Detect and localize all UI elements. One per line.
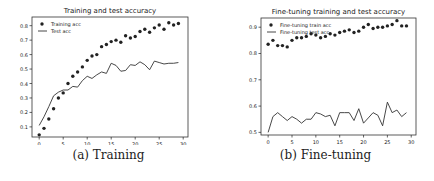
- finetuning-caption: (b) Fine-tuning: [217, 148, 434, 162]
- test-accuracy-line: [39, 61, 178, 125]
- training-accuracy-chart: Training and test accuracy0.10.20.30.40.…: [0, 0, 217, 145]
- legend-label: Training acc: [50, 21, 81, 28]
- y-tick-label: 0.1: [20, 124, 28, 130]
- training-caption: (a) Training: [0, 148, 217, 162]
- y-tick-label: 0.7: [249, 77, 257, 83]
- x-tick-label: 5: [62, 141, 65, 145]
- x-tick-label: 5: [290, 139, 293, 145]
- x-tick-label: 20: [132, 141, 138, 145]
- chart-legend: Training accTest acc: [38, 21, 81, 34]
- legend-label: Fine-tuning train acc: [280, 22, 332, 29]
- finetuning-accuracy-chart: Fine-tuning training and test accuracy0.…: [217, 0, 434, 145]
- y-tick-label: 0.9: [249, 24, 257, 30]
- y-tick-label: 0.4: [20, 81, 28, 87]
- x-tick-label: 10: [84, 141, 90, 145]
- x-tick-label: 25: [156, 141, 162, 145]
- x-tick-label: 0: [267, 139, 270, 145]
- x-tick-label: 30: [408, 139, 414, 145]
- y-tick-label: 0.6: [20, 52, 28, 58]
- chart-title: Fine-tuning training and test accuracy: [272, 8, 405, 16]
- legend-label: Fine-tuning test acc: [280, 29, 330, 36]
- y-tick-label: 0.8: [249, 50, 257, 56]
- chart-title: Training and test accuracy: [63, 7, 157, 15]
- x-tick-label: 0: [38, 141, 41, 145]
- x-tick-label: 15: [108, 141, 114, 145]
- finetuning-chart-panel: Fine-tuning training and test accuracy0.…: [217, 0, 434, 181]
- y-tick-label: 0.5: [249, 129, 257, 135]
- x-tick-label: 25: [384, 139, 390, 145]
- x-tick-label: 30: [180, 141, 186, 145]
- y-tick-label: 0.8: [20, 23, 28, 29]
- legend-label: Test acc: [50, 28, 71, 34]
- y-tick-label: 0.2: [20, 109, 28, 115]
- y-tick-label: 0.6: [249, 103, 257, 109]
- training-chart-panel: Training and test accuracy0.10.20.30.40.…: [0, 0, 217, 181]
- x-tick-label: 20: [360, 139, 366, 145]
- chart-legend: Fine-tuning train accFine-tuning test ac…: [267, 22, 332, 36]
- train-accuracy-dots: [38, 21, 181, 136]
- y-tick-label: 0.7: [20, 37, 28, 43]
- y-tick-label: 0.5: [20, 66, 28, 72]
- x-tick-label: 15: [337, 139, 343, 145]
- x-tick-label: 10: [313, 139, 319, 145]
- test-accuracy-line: [268, 102, 406, 132]
- plot-frame: [261, 18, 416, 135]
- y-tick-label: 0.3: [20, 95, 28, 101]
- plot-frame: [32, 17, 188, 137]
